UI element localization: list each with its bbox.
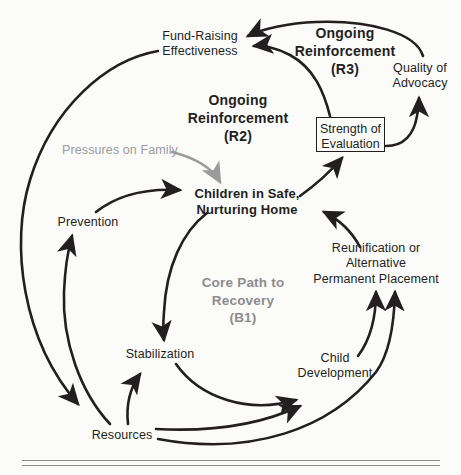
footer-rule-top bbox=[22, 460, 440, 461]
link-child-development-to-reunification bbox=[358, 292, 376, 356]
link-resources-to-child-development bbox=[156, 406, 300, 430]
node-resources: Resources bbox=[86, 428, 158, 443]
link-resources-to-stabilization bbox=[128, 374, 141, 424]
node-child-development: Child Development bbox=[291, 351, 379, 382]
node-fund-raising-effectiveness: Fund-Raising Effectiveness bbox=[140, 29, 260, 60]
node-children-in-safe-nurturing-home: Children in Safe, Nurturing Home bbox=[182, 186, 312, 218]
node-prevention: Prevention bbox=[48, 215, 128, 230]
node-reunification-or-alternative-permanent-placement: Reunification or Alternative Permanent P… bbox=[308, 241, 444, 287]
node-pressures-on-family: Pressures on Family bbox=[60, 143, 180, 158]
link-evaluation-to-advocacy bbox=[386, 98, 419, 146]
node-quality-of-advocacy: Quality of Advocacy bbox=[380, 61, 460, 92]
footer-rule-bottom bbox=[22, 465, 440, 466]
link-prevention-to-children bbox=[96, 190, 180, 212]
loop-label-b1: Core Path to Recovery (B1) bbox=[178, 274, 308, 327]
loop-label-r2: Ongoing Reinforcement (R2) bbox=[168, 91, 308, 146]
node-strength-of-evaluation: Strength of Evaluation bbox=[316, 117, 385, 152]
causal-loop-diagram: Ongoing Reinforcement (R3) Ongoing Reinf… bbox=[0, 0, 461, 475]
node-stabilization: Stabilization bbox=[120, 347, 200, 362]
link-stabilization-to-child-development bbox=[176, 364, 296, 405]
